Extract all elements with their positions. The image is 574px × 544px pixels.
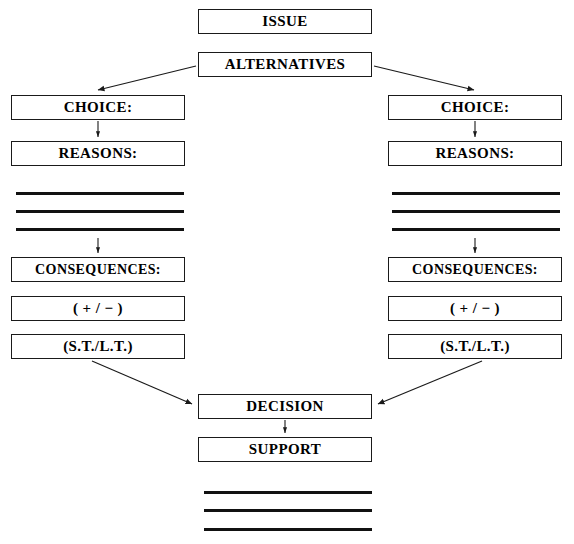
- edge-stlt-left-to-decision: [92, 361, 192, 404]
- node-alternatives-label: ALTERNATIVES: [225, 57, 346, 72]
- node-reasons-right[interactable]: REASONS:: [388, 141, 562, 166]
- edge-alternatives-to-choice-left: [98, 66, 196, 90]
- blank-rule-left-2[interactable]: [16, 210, 184, 213]
- blank-rule-bottom-3[interactable]: [204, 528, 372, 531]
- node-support[interactable]: SUPPORT: [198, 437, 372, 462]
- node-st-lt-left[interactable]: (S.T./L.T.): [11, 334, 185, 359]
- blank-rule-right-1[interactable]: [392, 192, 560, 195]
- node-reasons-left[interactable]: REASONS:: [11, 141, 185, 166]
- node-consequences-left-label: CONSEQUENCES:: [35, 262, 161, 276]
- blank-rule-right-3[interactable]: [392, 228, 560, 231]
- node-st-lt-right-label: (S.T./L.T.): [440, 339, 510, 354]
- node-decision-label: DECISION: [246, 399, 323, 414]
- node-choice-left[interactable]: CHOICE:: [11, 95, 185, 120]
- flowchart-canvas: ISSUE ALTERNATIVES CHOICE: REASONS: CONS…: [0, 0, 574, 544]
- node-consequences-right-label: CONSEQUENCES:: [412, 262, 538, 276]
- node-choice-right-label: CHOICE:: [441, 100, 510, 115]
- edge-stlt-right-to-decision: [378, 361, 482, 404]
- blank-rule-bottom-1[interactable]: [204, 491, 372, 494]
- node-choice-left-label: CHOICE:: [64, 100, 133, 115]
- edge-alternatives-to-choice-right: [374, 66, 474, 90]
- node-consequences-left[interactable]: CONSEQUENCES:: [11, 257, 185, 282]
- node-plus-minus-right-label: ( + / − ): [450, 301, 500, 316]
- node-issue-label: ISSUE: [262, 14, 307, 29]
- blank-rule-left-1[interactable]: [16, 192, 184, 195]
- blank-rule-right-2[interactable]: [392, 210, 560, 213]
- node-st-lt-left-label: (S.T./L.T.): [63, 339, 133, 354]
- node-consequences-right[interactable]: CONSEQUENCES:: [388, 257, 562, 282]
- node-issue[interactable]: ISSUE: [198, 9, 372, 34]
- node-choice-right[interactable]: CHOICE:: [388, 95, 562, 120]
- node-plus-minus-left-label: ( + / − ): [73, 301, 123, 316]
- node-alternatives[interactable]: ALTERNATIVES: [198, 52, 372, 77]
- blank-rule-bottom-2[interactable]: [204, 509, 372, 512]
- node-plus-minus-right[interactable]: ( + / − ): [388, 296, 562, 321]
- node-decision[interactable]: DECISION: [198, 394, 372, 419]
- node-support-label: SUPPORT: [249, 442, 321, 457]
- node-plus-minus-left[interactable]: ( + / − ): [11, 296, 185, 321]
- node-reasons-left-label: REASONS:: [58, 146, 137, 161]
- blank-rule-left-3[interactable]: [16, 228, 184, 231]
- node-st-lt-right[interactable]: (S.T./L.T.): [388, 334, 562, 359]
- node-reasons-right-label: REASONS:: [435, 146, 514, 161]
